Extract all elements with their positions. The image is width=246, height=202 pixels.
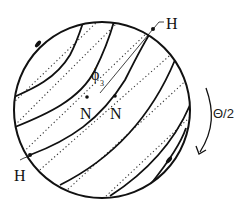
rotation-arrow-icon bbox=[200, 88, 211, 152]
h-top-label: H bbox=[166, 15, 178, 32]
n-tilde-point bbox=[113, 94, 117, 98]
rotation-label: Θ/2 bbox=[213, 106, 234, 121]
n-point bbox=[85, 95, 89, 99]
dotted-lines bbox=[0, 0, 246, 202]
n-tilde-label: N bbox=[110, 105, 122, 122]
n-label: N bbox=[80, 105, 92, 122]
phi-label: ϕ bbox=[91, 66, 99, 84]
h-top-leader bbox=[154, 22, 164, 28]
phi-subscript: 3 bbox=[100, 79, 104, 88]
sphere-diagram: H H ϕ 3 N N Θ/2 bbox=[0, 0, 246, 202]
h-bottom-label: H bbox=[14, 167, 26, 184]
